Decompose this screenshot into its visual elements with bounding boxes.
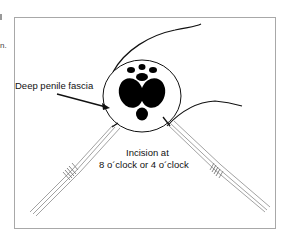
surgical-illustration: Deep penile fascia Incision at 8 o´clock…: [0, 0, 291, 242]
label-deep-penile-fascia: Deep penile fascia: [15, 80, 94, 91]
deep-dorsal-vein: [136, 73, 148, 81]
label-incision-line1: Incision at: [126, 147, 169, 158]
dorsal-vein-right: [149, 67, 157, 73]
corpus-spongiosum: [136, 108, 148, 121]
dorsal-vein-center: [139, 64, 146, 70]
dorsal-vein-left: [127, 67, 135, 73]
label-incision-line2: 8 o´clock or 4 o´clock: [99, 159, 189, 170]
fascia-pointer-arrow: [57, 94, 106, 107]
